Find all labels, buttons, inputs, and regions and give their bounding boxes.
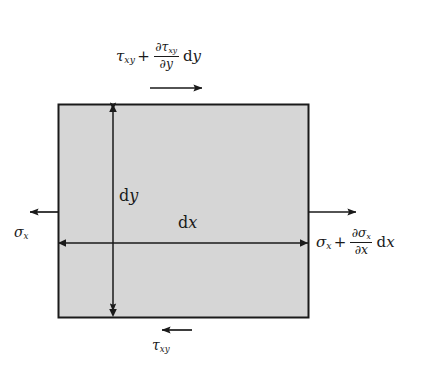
- sigma-right-numerator: ∂σx: [350, 227, 372, 243]
- tau-top-fraction: ∂τxy∂y: [154, 41, 179, 70]
- dy-variable: y: [129, 186, 138, 205]
- sigma-right-denominator: ∂x: [350, 243, 372, 256]
- tau-top-differential: dy: [181, 47, 201, 65]
- sigma-left-base: σ: [14, 224, 24, 240]
- tau-top-label: τxy+∂τxy∂ydy: [116, 42, 201, 71]
- tau-top-base-sub: xy: [124, 54, 135, 65]
- sigma-left-label: σx: [14, 225, 29, 241]
- sigma-right-base: σ: [316, 233, 326, 251]
- sigma-right-fraction: ∂σx∂x: [350, 227, 372, 256]
- tau-bottom-label: τxy: [152, 338, 170, 354]
- dx-variable: x: [188, 213, 197, 232]
- stress-element-diagram: [0, 0, 448, 375]
- sigma-right-differential: dx: [374, 233, 394, 251]
- dy-label: dy: [119, 188, 138, 204]
- dx-label: dx: [178, 215, 197, 231]
- dx-differential: d: [178, 213, 188, 232]
- dy-differential: d: [119, 186, 129, 205]
- tau-top-operator: +: [135, 47, 152, 65]
- stress-element-rect: [59, 105, 309, 318]
- tau-top-numerator: ∂τxy: [154, 41, 179, 57]
- sigma-right-base-sub: x: [326, 240, 331, 251]
- tau-bottom-sub: xy: [160, 344, 170, 354]
- tau-top-denominator: ∂y: [154, 57, 179, 70]
- tau-bottom-base: τ: [152, 337, 160, 353]
- sigma-right-operator: +: [332, 233, 349, 251]
- sigma-left-sub: x: [24, 231, 29, 241]
- sigma-right-label: σx+∂σx∂xdx: [316, 228, 395, 257]
